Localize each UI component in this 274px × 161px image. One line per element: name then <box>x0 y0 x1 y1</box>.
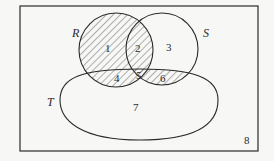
region-1-label: 1 <box>105 42 111 54</box>
region-4-label: 4 <box>114 72 120 84</box>
region-8-label: 8 <box>244 134 250 146</box>
region-5-label: 5 <box>136 69 142 81</box>
set-label-t: T <box>47 95 55 109</box>
region-6-label: 6 <box>160 72 166 84</box>
region-2-label: 2 <box>135 42 141 54</box>
venn-diagram: R S T 1 2 3 4 5 6 7 8 <box>0 0 274 161</box>
region-7-label: 7 <box>133 101 139 113</box>
region-3-label: 3 <box>166 41 172 53</box>
set-label-r: R <box>71 26 80 40</box>
set-label-s: S <box>203 26 209 40</box>
